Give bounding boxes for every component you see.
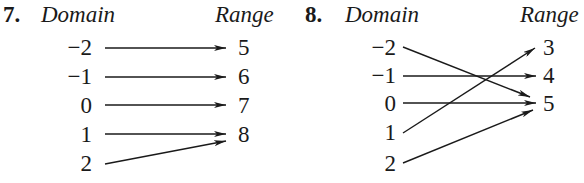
arrow-icon bbox=[403, 47, 530, 97]
mapping-arrows bbox=[0, 0, 584, 183]
arrow-icon bbox=[105, 141, 226, 164]
arrow-icon bbox=[403, 110, 533, 163]
